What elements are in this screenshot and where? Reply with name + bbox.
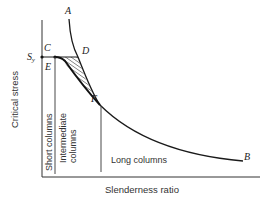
label-c: C: [44, 42, 51, 53]
label-sy: Sy: [27, 51, 35, 63]
label-e: E: [44, 61, 51, 72]
intermediate-columns-label-2: columns: [68, 129, 78, 163]
sy-point: [40, 55, 43, 58]
euler-curve: [69, 19, 243, 161]
short-columns-label: Short columns: [44, 113, 54, 171]
y-axis-label: Critical stress: [9, 71, 20, 128]
column-buckling-diagram: A C Sy E D F B Critical stress Slenderne…: [0, 0, 273, 201]
label-d: D: [81, 45, 90, 56]
label-a: A: [64, 5, 72, 16]
long-columns-label: Long columns: [111, 155, 168, 165]
label-b: B: [244, 151, 250, 162]
x-axis-label: Slenderness ratio: [105, 184, 179, 195]
label-f: F: [90, 93, 98, 104]
intermediate-columns-label-1: Intermediate: [58, 113, 68, 163]
